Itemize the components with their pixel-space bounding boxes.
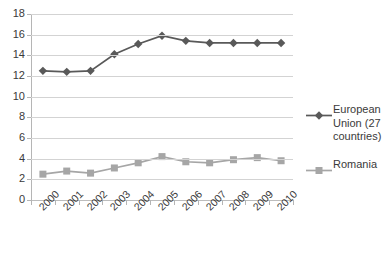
line-chart: 024681012141618 200020012002200320042005…: [0, 0, 392, 257]
data-point-1-2002: [87, 170, 94, 177]
y-axis-label-14: 14: [13, 49, 25, 60]
plot-area: [31, 14, 293, 200]
data-point-1-2009: [254, 154, 261, 161]
y-tick-2: [27, 179, 31, 180]
data-point-0-2007: [205, 39, 213, 47]
legend-label-0: European Union (27 countries): [333, 103, 392, 144]
gridline-10: [31, 97, 293, 98]
data-point-1-2003: [111, 164, 118, 171]
y-tick-8: [27, 117, 31, 118]
data-point-0-2008: [229, 39, 237, 47]
y-axis-label-12: 12: [13, 70, 25, 81]
gridline-14: [31, 55, 293, 56]
legend-label-1: Romania: [333, 158, 392, 172]
y-tick-6: [27, 138, 31, 139]
legend-entry-0[interactable]: European Union (27 countries): [306, 103, 392, 144]
y-axis-label-0: 0: [19, 194, 25, 205]
legend-entry-1[interactable]: Romania: [306, 158, 392, 172]
data-point-1-2007: [206, 159, 213, 166]
data-point-0-2010: [277, 39, 285, 47]
y-axis-label-4: 4: [19, 153, 25, 164]
data-point-0-2009: [253, 39, 261, 47]
legend-swatch-marker-1: [316, 167, 323, 174]
y-axis-label-8: 8: [19, 111, 25, 122]
data-point-0-2001: [63, 68, 71, 76]
y-axis-label-6: 6: [19, 132, 25, 143]
data-point-0-2004: [134, 40, 142, 48]
gridline-2: [31, 179, 293, 180]
legend-swatch-marker-0: [315, 111, 323, 119]
chart-legend: European Union (27 countries)Romania: [306, 103, 392, 185]
y-axis-label-2: 2: [19, 173, 25, 184]
y-axis-label-10: 10: [13, 91, 25, 102]
gridline-18: [31, 14, 293, 15]
gridline-16: [31, 35, 293, 36]
legend-marker-square-icon: [306, 162, 332, 173]
data-point-0-2005: [158, 32, 166, 40]
gridline-8: [31, 117, 293, 118]
y-axis-label-18: 18: [13, 8, 25, 19]
data-point-1-2004: [135, 159, 142, 166]
data-point-1-2000: [39, 171, 46, 178]
y-tick-12: [27, 76, 31, 77]
y-tick-18: [27, 14, 31, 15]
y-axis-label-16: 16: [13, 29, 25, 40]
legend-marker-diamond-icon: [306, 107, 332, 118]
gridline-12: [31, 76, 293, 77]
y-tick-16: [27, 35, 31, 36]
y-tick-14: [27, 55, 31, 56]
data-point-0-2006: [182, 37, 190, 45]
series-layer: [31, 14, 293, 200]
gridline-4: [31, 159, 293, 160]
x-axis-labels: 2000200120022003200420052006200720082009…: [31, 205, 293, 255]
data-point-0-2000: [39, 67, 47, 75]
data-point-1-2008: [230, 156, 237, 163]
y-tick-10: [27, 97, 31, 98]
y-axis-labels: 024681012141618: [0, 14, 25, 200]
series-line-0: [43, 36, 281, 72]
gridline-6: [31, 138, 293, 139]
y-tick-4: [27, 159, 31, 160]
data-point-1-2001: [63, 168, 70, 175]
